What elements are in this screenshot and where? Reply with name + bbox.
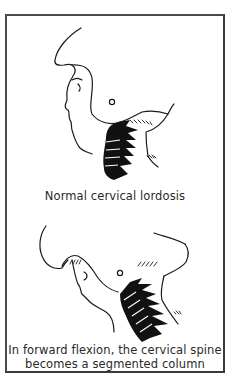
normal-lordosis-illustration <box>7 16 227 186</box>
forward-flexion-illustration <box>7 202 227 342</box>
normal-lordosis-caption: Normal cervical lordosis <box>7 189 223 203</box>
figure-frame: Normal cervical lordosis <box>5 14 225 373</box>
flexion-caption-line-1: In forward flexion, the cervical spine <box>7 343 223 357</box>
flexion-caption-line-2: becomes a segmented column <box>7 357 223 371</box>
